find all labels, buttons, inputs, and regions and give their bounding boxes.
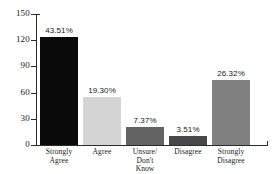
x-axis-line — [36, 145, 268, 146]
y-tick-label: 30 — [21, 113, 30, 123]
bar-value-label: 7.37% — [120, 116, 170, 125]
y-tick-0 — [31, 145, 36, 146]
bar — [169, 136, 207, 145]
y-tick-label: 120 — [16, 34, 30, 44]
y-tick-label: 0 — [25, 139, 30, 149]
bar-value-label: 26.32% — [206, 69, 256, 78]
bar — [40, 37, 78, 145]
bar — [126, 127, 164, 145]
bar-chart: 0306090120150 43.51%19.30%7.37%3.51%26.3… — [0, 0, 273, 174]
y-tick-label: 90 — [21, 60, 30, 70]
y-tick-120 — [31, 40, 36, 41]
category-label: Strongly Disagree — [205, 148, 257, 165]
bar-value-label: 19.30% — [77, 86, 127, 95]
bar-value-label: 43.51% — [34, 26, 84, 35]
y-tick-label: 150 — [16, 8, 30, 18]
y-tick-150 — [31, 14, 36, 15]
bar-value-label: 3.51% — [163, 125, 213, 134]
bar — [83, 97, 121, 145]
y-tick-60 — [31, 93, 36, 94]
y-tick-label: 60 — [21, 87, 30, 97]
y-axis-top-cap — [36, 14, 40, 15]
x-axis-right-cap — [267, 141, 268, 146]
bar — [212, 80, 250, 146]
y-tick-30 — [31, 119, 36, 120]
y-tick-90 — [31, 66, 36, 67]
